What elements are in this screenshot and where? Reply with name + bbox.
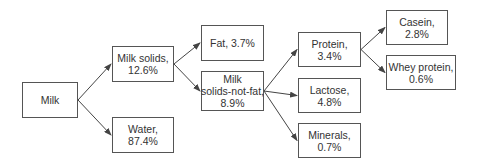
node-lactose: Lactose, 4.8% <box>298 78 361 113</box>
node-milk: Milk <box>22 82 78 118</box>
node-milk-solids-not-fat: Milk solids-not-fat, 8.9% <box>201 71 264 111</box>
node-label: Milk solids-not-fat, 8.9% <box>201 73 264 109</box>
node-label: Milk <box>41 94 60 106</box>
node-casein: Casein, 2.8% <box>386 10 448 45</box>
node-minerals: Minerals, 0.7% <box>298 123 361 158</box>
node-label: Water, 87.4% <box>128 123 158 147</box>
node-protein: Protein, 3.4% <box>298 32 361 67</box>
node-label: Protein, 3.4% <box>311 38 347 62</box>
arrow-milk-to-water <box>78 100 111 135</box>
arrow-protein-to-casein <box>361 28 385 50</box>
arrow-msnf-to-lactose <box>264 91 297 96</box>
node-water: Water, 87.4% <box>112 117 174 153</box>
node-label: Minerals, 0.7% <box>308 129 351 153</box>
arrow-protein-to-whey <box>361 50 385 73</box>
arrow-milk_solids-to-msnf <box>174 64 200 91</box>
node-label: Milk solids, 12.6% <box>117 52 168 76</box>
node-milk-solids: Milk solids, 12.6% <box>112 46 174 82</box>
arrow-milk-to-milk_solids <box>78 64 111 100</box>
node-whey-protein: Whey protein, 0.6% <box>386 55 456 90</box>
node-fat: Fat, 3.7% <box>201 25 264 61</box>
arrow-msnf-to-protein <box>264 50 297 92</box>
node-label: Lactose, 4.8% <box>310 84 350 108</box>
arrow-msnf-to-minerals <box>264 91 297 141</box>
node-label: Fat, 3.7% <box>210 37 255 49</box>
node-label: Whey protein, 0.6% <box>389 61 454 85</box>
arrow-milk_solids-to-fat <box>174 43 200 64</box>
node-label: Casein, 2.8% <box>399 16 435 40</box>
milk-composition-diagram: Milk Milk solids, 12.6% Water, 87.4% Fat… <box>0 0 478 166</box>
